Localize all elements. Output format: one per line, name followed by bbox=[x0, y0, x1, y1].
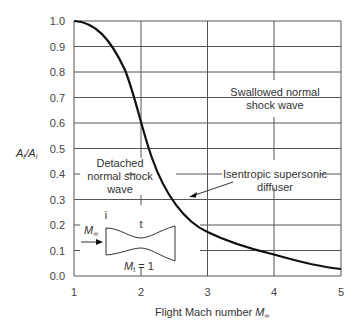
svg-text:3: 3 bbox=[204, 286, 210, 298]
svg-text:5: 5 bbox=[338, 286, 344, 298]
x-axis-label: Flight Mach number M∞ bbox=[155, 306, 269, 319]
svg-text:0.7: 0.7 bbox=[50, 92, 65, 104]
svg-text:0.4: 0.4 bbox=[50, 168, 65, 180]
svg-text:M∞: M∞ bbox=[84, 224, 98, 237]
chart: 1.0 0.9 0.8 0.7 0.6 0.5 0.4 0.3 0.2 0.1 … bbox=[0, 0, 357, 327]
leader-line bbox=[192, 182, 233, 196]
svg-text:2: 2 bbox=[138, 286, 144, 298]
svg-text:i: i bbox=[105, 209, 107, 221]
detached-label-3: wave bbox=[106, 183, 133, 195]
svg-text:t: t bbox=[139, 218, 142, 230]
y-tick-labels: 1.0 0.9 0.8 0.7 0.6 0.5 0.4 0.3 0.2 0.1 … bbox=[50, 15, 65, 282]
inlet-sketch: i t M∞ Mt = 1 bbox=[81, 209, 175, 273]
svg-text:4: 4 bbox=[271, 286, 277, 298]
arrowhead-icon bbox=[189, 192, 197, 198]
x-tick-labels: 1 2 3 4 5 bbox=[71, 286, 344, 298]
isentropic-label: Isentropic supersonic bbox=[223, 168, 327, 180]
svg-text:0.8: 0.8 bbox=[50, 66, 65, 78]
svg-text:0.1: 0.1 bbox=[50, 245, 65, 257]
grid-lines bbox=[74, 21, 341, 276]
svg-text:0.6: 0.6 bbox=[50, 117, 65, 129]
svg-text:0.2: 0.2 bbox=[50, 219, 65, 231]
swallowed-label: Swallowed normal bbox=[230, 86, 319, 98]
svg-text:1.0: 1.0 bbox=[50, 15, 65, 27]
svg-text:1: 1 bbox=[71, 286, 77, 298]
svg-text:Mt = 1: Mt = 1 bbox=[124, 260, 154, 273]
y-axis-label: At/Ai bbox=[15, 147, 38, 160]
detached-label: Detached bbox=[96, 157, 143, 169]
svg-text:0.3: 0.3 bbox=[50, 194, 65, 206]
svg-text:0.5: 0.5 bbox=[50, 143, 65, 155]
swallowed-label-2: shock wave bbox=[246, 99, 303, 111]
svg-text:0.9: 0.9 bbox=[50, 41, 65, 53]
isentropic-label-2: diffuser bbox=[257, 181, 293, 193]
detached-label-2: normal shock bbox=[87, 170, 153, 182]
svg-text:0.0: 0.0 bbox=[50, 270, 65, 282]
inflow-arrow-icon bbox=[96, 239, 103, 245]
